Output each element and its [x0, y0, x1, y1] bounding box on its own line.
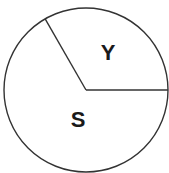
- slice-label-s: S: [71, 107, 86, 132]
- pie-chart: Y S: [0, 0, 169, 173]
- slice-label-y: Y: [101, 40, 116, 65]
